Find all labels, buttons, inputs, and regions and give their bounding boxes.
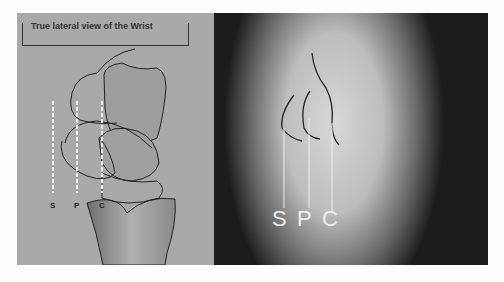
diagram-label-c: C: [99, 201, 105, 210]
diagram-title: True lateral view of the Wrist: [31, 21, 153, 31]
xray-label-p: P: [297, 206, 315, 232]
xray-label-c: C: [322, 206, 341, 232]
wrist-figure: True lateral view of the Wrist S P C S P…: [17, 13, 488, 265]
wrist-diagram-panel: True lateral view of the Wrist S P C: [17, 13, 214, 265]
xray-tracing: [214, 13, 488, 265]
wrist-bone-drawing: [17, 13, 214, 265]
diagram-label-p: P: [74, 201, 79, 210]
diagram-label-s: S: [50, 201, 55, 210]
xray-label-s: S: [272, 206, 290, 232]
xray-panel: S P C: [214, 13, 488, 265]
